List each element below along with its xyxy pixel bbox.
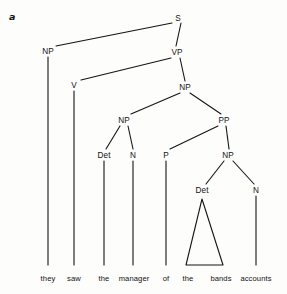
terminal-word-3: manager <box>119 274 150 283</box>
tree-node-pp: PP <box>218 116 229 125</box>
terminal-word-7: accounts <box>240 274 271 283</box>
tree-node-np1: NP <box>42 47 54 56</box>
tree-branch-lines <box>56 23 254 184</box>
tree-node-det1: Det <box>97 151 110 160</box>
terminal-word-2: the <box>99 274 110 283</box>
tree-lines-svg <box>0 0 287 294</box>
tree-node-vp: VP <box>171 48 182 57</box>
terminal-word-1: saw <box>67 274 81 283</box>
terminal-word-6: bands <box>210 274 231 283</box>
tree-node-n2: N <box>253 186 259 195</box>
triangle-Det2 <box>186 199 223 265</box>
branch-VP-NP2 <box>180 58 185 81</box>
branch-PP-NP4 <box>226 126 229 149</box>
tree-node-v: V <box>71 81 77 90</box>
branch-NP4-N2 <box>233 161 254 184</box>
branch-S-NP1 <box>56 23 172 46</box>
branch-PP-P <box>170 126 218 149</box>
tree-node-s: S <box>175 14 181 23</box>
tree-node-n1: N <box>130 151 136 160</box>
tree-stem-lines <box>48 57 256 265</box>
branch-NP2-PP <box>190 93 221 114</box>
branch-NP4-Det2 <box>206 161 224 184</box>
terminal-word-5: the <box>183 274 194 283</box>
branch-VP-V <box>81 58 171 80</box>
tree-node-np3: NP <box>118 116 130 125</box>
tree-node-np2: NP <box>179 83 191 92</box>
elision-triangle <box>186 199 223 265</box>
branch-NP2-NP3 <box>131 93 180 114</box>
tree-node-np4: NP <box>222 151 234 160</box>
tree-node-det2: Det <box>195 186 208 195</box>
tree-node-p: P <box>163 151 169 160</box>
branch-NP3-Det1 <box>106 126 120 149</box>
terminal-word-0: they <box>41 274 56 283</box>
branch-NP3-N1 <box>128 126 133 149</box>
terminal-word-4: of <box>163 274 170 283</box>
branch-S-VP <box>176 23 181 46</box>
syntax-tree-figure: a SNPVPVNPNPPPDetNPNPDetN theysawthemana… <box>0 0 287 294</box>
